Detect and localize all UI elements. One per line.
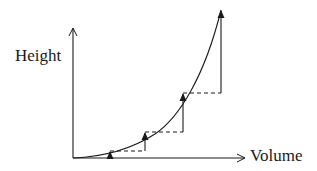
y-axis-label: Height	[15, 47, 61, 64]
step-arrows	[110, 11, 221, 158]
height-volume-diagram: Height Volume	[0, 0, 317, 171]
x-axis-label: Volume	[250, 147, 303, 164]
height-volume-curve	[73, 10, 221, 158]
dashed-step-lines	[110, 93, 221, 151]
